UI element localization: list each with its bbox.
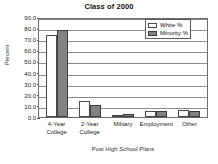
bar[interactable] [189, 111, 200, 117]
x-tick-label-line1: 4-Year [48, 121, 65, 127]
bar-group [41, 19, 74, 117]
y-tick-label: 20.0 [12, 93, 36, 99]
x-tick-label-line2: College [40, 129, 73, 137]
bar[interactable] [79, 101, 90, 117]
x-tick-label-line1: 2-Year [81, 121, 98, 127]
bar[interactable] [156, 111, 167, 117]
x-tick-label: Employment [139, 121, 172, 141]
y-tick-label: 30.0 [12, 82, 36, 88]
bar-group [107, 19, 140, 117]
bar[interactable] [145, 111, 156, 117]
legend-swatch [148, 31, 157, 36]
x-tick-label: Other [173, 121, 206, 141]
x-tick-label-line2: College [73, 129, 106, 137]
y-tick-label: 0.0 [12, 115, 36, 121]
bar[interactable] [46, 35, 57, 117]
y-tick-label: 50.0 [12, 59, 36, 65]
y-tick-label: 70.0 [12, 37, 36, 43]
x-tick-label-line1: Military [113, 121, 132, 127]
bar[interactable] [90, 105, 101, 117]
bar[interactable] [112, 115, 123, 117]
bar[interactable] [57, 30, 68, 117]
x-tick-label-line1: Other [182, 121, 197, 127]
legend: White %Minority % [145, 19, 191, 39]
chart-title: Class of 2000 [0, 2, 218, 12]
legend-item[interactable]: White % [148, 21, 188, 29]
y-tick-label: 40.0 [12, 71, 36, 77]
legend-label: White % [160, 22, 182, 29]
x-tick-label: Military [106, 121, 139, 141]
legend-item[interactable]: Minority % [148, 29, 188, 37]
x-tick-label: 4-YearCollege [40, 121, 73, 141]
bar[interactable] [123, 114, 134, 117]
legend-label: Minority % [160, 30, 188, 37]
x-axis-tick-labels: 4-YearCollege2-YearCollegeMilitaryEmploy… [38, 121, 208, 141]
legend-swatch [148, 23, 157, 28]
y-tick-label: 60.0 [12, 48, 36, 54]
bar-group [74, 19, 107, 117]
x-tick-label-line1: Employment [139, 121, 172, 127]
y-axis-tick-labels: 90.080.070.060.050.040.030.020.010.00.0 [12, 16, 36, 120]
y-axis-title: Percent [4, 32, 10, 78]
bar[interactable] [178, 110, 189, 117]
y-tick-label: 90.0 [12, 15, 36, 21]
y-tick-label: 10.0 [12, 104, 36, 110]
y-tick-label: 80.0 [12, 26, 36, 32]
x-axis-title: Post High School Plans [38, 146, 208, 152]
bar-chart: Class of 2000 Percent 90.080.070.060.050… [0, 0, 218, 164]
x-tick-label: 2-YearCollege [73, 121, 106, 141]
